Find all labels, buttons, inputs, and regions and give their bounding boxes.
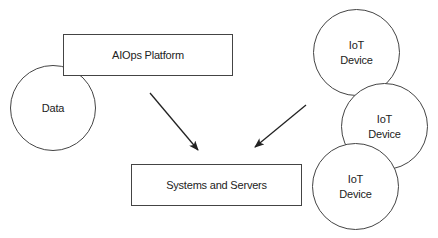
arrow-iot-to-systems [255,105,306,147]
diagram-canvas: Data AIOps Platform Systems and Servers … [0,0,438,238]
arrow-aiops-to-systems [150,93,198,150]
arrows-layer [0,0,438,238]
